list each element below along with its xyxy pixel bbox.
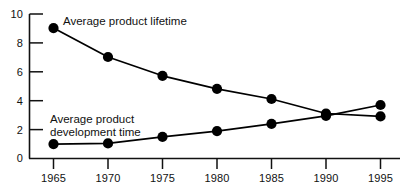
y-tick-label-4: 4 [1,95,23,107]
x-tick-label-1990: 1990 [304,172,348,184]
chart-container: 10 8 6 4 2 0 1965 1970 1975 1980 1985 19… [0,0,416,192]
x-tick-label-1970: 1970 [86,172,130,184]
y-tick-label-0: 0 [1,152,23,164]
y-tick-label-8: 8 [1,37,23,49]
y-tick-label-10: 10 [1,8,23,20]
x-tick-label-1980: 1980 [195,172,239,184]
x-tick-label-1985: 1985 [250,172,294,184]
series-label-development-line1: Average product [50,113,134,125]
series-label-average-product-development-time: Average product development time [50,113,141,139]
x-tick-label-1975: 1975 [141,172,185,184]
y-axis-ticks [30,14,44,130]
x-tick-label-1995: 1995 [359,172,403,184]
y-tick-label-6: 6 [1,66,23,78]
x-tick-label-1965: 1965 [32,172,76,184]
series-average-product-lifetime [48,23,385,122]
x-axis-ticks [54,159,381,170]
chart-plot-area [0,0,416,192]
series-label-development-line2: development time [50,126,141,138]
series-label-average-product-lifetime: Average product lifetime [63,15,187,28]
y-tick-label-2: 2 [1,124,23,136]
